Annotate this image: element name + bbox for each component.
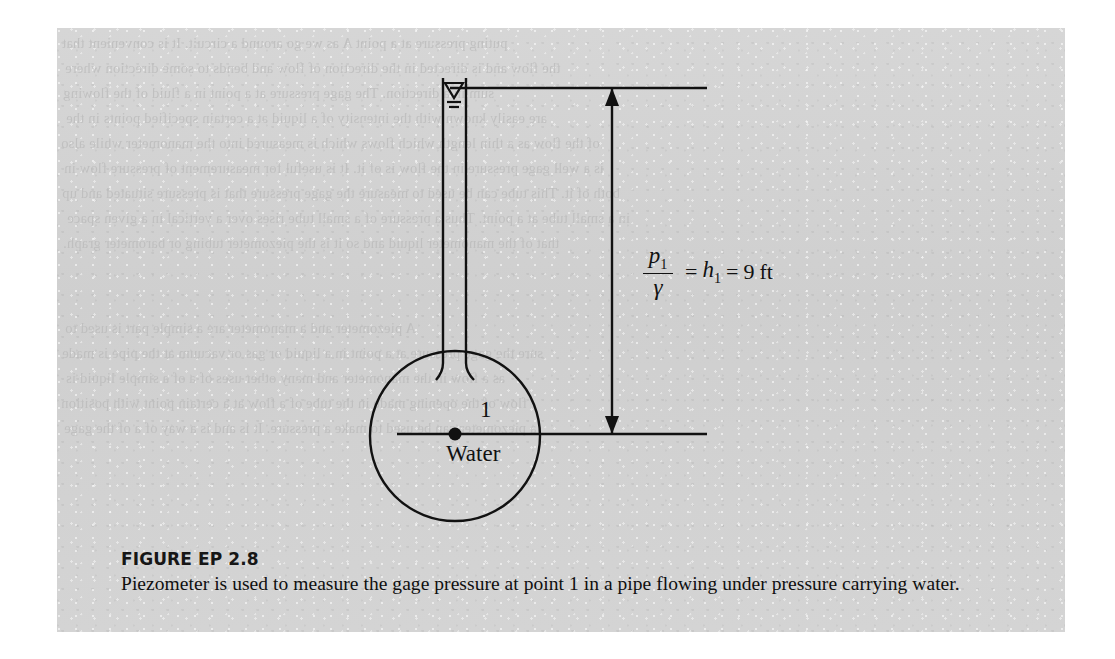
fraction-denominator: γ	[650, 274, 665, 299]
dimension-arrow-down	[605, 416, 619, 434]
pressure-head-fraction: p1 γ	[643, 244, 673, 299]
dimension-arrow-up	[605, 88, 619, 106]
tube-left-wall	[436, 78, 443, 380]
point-1-label: 1	[480, 397, 492, 423]
piezometer-diagram	[57, 28, 1065, 632]
equals-sign-1: =	[685, 259, 697, 285]
head-unit: ft	[759, 259, 772, 285]
water-surface-icon	[445, 83, 463, 107]
tube-right-wall	[466, 78, 474, 380]
figure-number-label: FIGURE EP 2.8	[121, 549, 1051, 569]
head-equation: p1 γ = h1 = 9 ft	[643, 244, 773, 299]
head-value: 9	[743, 259, 754, 285]
fluid-label: Water	[446, 441, 500, 467]
figure-page: puting pressure at a point A as we go ar…	[0, 0, 1115, 659]
fraction-numerator: p1	[646, 244, 671, 273]
figure-caption-text: Piezometer is used to measure the gage p…	[121, 573, 1051, 595]
point-1-marker	[449, 428, 462, 441]
equals-sign-2: =	[726, 259, 738, 285]
figure-panel: puting pressure at a point A as we go ar…	[57, 28, 1065, 632]
figure-caption-block: FIGURE EP 2.8 Piezometer is used to meas…	[121, 549, 1051, 595]
head-symbol: h1	[702, 257, 721, 287]
